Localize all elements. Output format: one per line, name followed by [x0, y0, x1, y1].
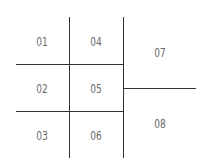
cell-label-07: 07: [150, 46, 171, 60]
cell-label-08: 08: [150, 117, 171, 131]
cell-label-03: 03: [32, 129, 53, 143]
divider-horizontal-right: [123, 88, 196, 89]
divider-vertical-left: [69, 17, 70, 158]
cell-label-02: 02: [32, 82, 53, 96]
cell-label-05: 05: [86, 82, 107, 96]
cell-label-04: 04: [86, 35, 107, 49]
divider-horizontal-top: [16, 64, 124, 65]
cell-label-01: 01: [32, 35, 53, 49]
cell-label-06: 06: [86, 129, 107, 143]
divider-horizontal-bottom: [16, 111, 124, 112]
